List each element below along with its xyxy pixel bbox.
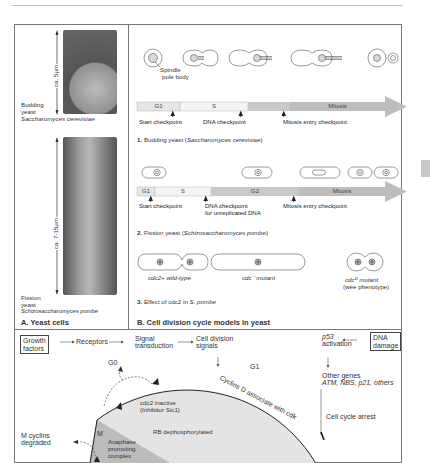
g0-label: G0: [108, 359, 117, 367]
rb-dephosphorylated-label: RB dephosphorylated: [153, 428, 213, 435]
growth-factors-line1: Growth: [23, 337, 46, 345]
receptors-label: Receptors: [76, 338, 108, 346]
growth-factors-box: Growth factors: [20, 335, 49, 354]
cell-cycle-wheel: [0, 0, 430, 463]
dna-damage-line1: DNA: [373, 334, 398, 342]
p53-line2: activation: [322, 340, 352, 348]
dna-damage-line2: damage: [373, 342, 398, 350]
dna-damage-box: DNA damage: [370, 332, 401, 351]
apc-line1: Anaphase: [108, 438, 136, 445]
apc-line2: promoting: [108, 445, 136, 452]
cell-cycle-arrest-label: Cell cycle arrest: [326, 413, 376, 421]
g1-label: G1: [250, 363, 259, 371]
genes-list-label: ATM, NBS, p21, others: [322, 379, 393, 387]
growth-factors-line2: factors: [23, 345, 46, 353]
cell-division-signals-line2: signals: [196, 342, 218, 350]
cdc2-inactive-label: cdc2 inactive: [140, 399, 176, 406]
m-phase-label: M: [97, 430, 103, 438]
signal-transduction-line2: transduction: [135, 342, 173, 350]
m-cyclins-line2: degraded: [21, 439, 51, 447]
apc-line3: complex: [108, 452, 131, 459]
inhibitor-label: (Inhibitor Sic1): [140, 406, 180, 413]
